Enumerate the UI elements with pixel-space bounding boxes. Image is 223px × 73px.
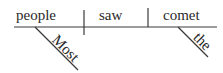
object-word: comet bbox=[163, 8, 200, 23]
verb-word: saw bbox=[99, 8, 122, 23]
sentence-diagram: people saw comet Most the bbox=[0, 0, 223, 73]
subject-word: people bbox=[16, 8, 56, 23]
